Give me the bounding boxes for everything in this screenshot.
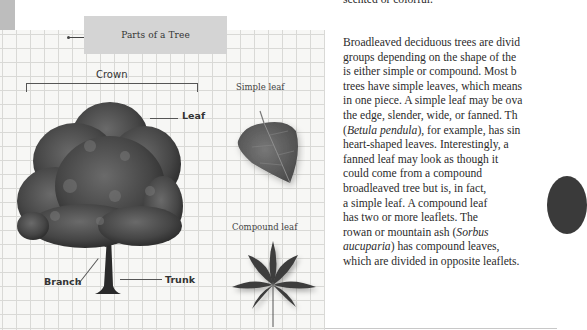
article-paragraph: Broadleaved deciduous trees are dividgro… (343, 36, 522, 270)
text-run: ), for example, has sin (417, 124, 520, 137)
paragraph-line: (Betula pendula), for example, has sin (343, 124, 522, 139)
page-bottom-rule (325, 328, 557, 329)
italic-species-name: Sorbus (456, 226, 488, 239)
paragraph-line: aucuparia) has compound leaves, (343, 240, 522, 255)
branch-label: Branch (44, 276, 82, 287)
tree-illustration-icon (15, 96, 185, 301)
paragraph-line: is either simple or compound. Most b (343, 65, 522, 80)
text-run: heart-shaped leaves. Interestingly, a (343, 138, 509, 151)
text-run: in one piece. A simple leaf may be ova (343, 94, 522, 107)
crown-label: Crown (96, 69, 128, 80)
paragraph-line: broadleaved tree but is, in fact, (343, 182, 522, 197)
paragraph-line: fanned leaf may look as though it (343, 153, 522, 168)
paragraph-line: groups depending on the shape of the (343, 51, 522, 66)
tree-crown (17, 102, 183, 248)
compound-leaf-label: Compound leaf (232, 222, 297, 232)
page-edge-circle-image (547, 176, 587, 234)
text-run: could come from a compound (343, 167, 482, 180)
text-run: rowan or mountain ash ( (343, 226, 456, 239)
trunk-label: Trunk (165, 274, 195, 285)
text-run: is either simple or compound. Most b (343, 65, 517, 78)
text-run: a simple leaf. A compound leaf (343, 197, 487, 210)
leaf-label: Leaf (182, 110, 205, 121)
text-run: which are divided in opposite leaflets. (343, 255, 519, 268)
paragraph-line: a simple leaf. A compound leaf (343, 197, 522, 212)
compound-leaf-icon (226, 235, 321, 330)
text-run: ) has compound leaves, (391, 240, 500, 253)
text-run: groups depending on the shape of the (343, 51, 516, 64)
paragraph-line: rowan or mountain ash (Sorbus (343, 226, 522, 241)
paragraph-line: could come from a compound (343, 167, 522, 182)
paragraph-line: the edge, slender, wide, or fanned. Th (343, 109, 522, 124)
italic-species-name: Betula pendula (347, 124, 418, 137)
diagram-title: Parts of a Tree (121, 30, 190, 40)
paragraph-line: which are divided in opposite leaflets. (343, 255, 522, 270)
paragraph-line: heart-shaped leaves. Interestingly, a (343, 138, 522, 153)
page-corner-tab (0, 0, 15, 30)
trunk-pointer-line (120, 279, 162, 280)
text-run: Broadleaved deciduous trees are divid (343, 36, 520, 49)
simple-leaf-icon (232, 105, 307, 190)
crown-bracket (26, 83, 198, 92)
diagram-title-box: Parts of a Tree (84, 16, 227, 54)
text-run: trees have simple leaves, which means (343, 80, 522, 93)
paragraph-line: has two or more leaflets. The (343, 211, 522, 226)
leaf-pointer-line (150, 118, 178, 119)
text-run: fanned leaf may look as though it (343, 153, 498, 166)
paragraph-line: trees have simple leaves, which means (343, 80, 522, 95)
text-run: broadleaved tree but is, in fact, (343, 182, 486, 195)
paragraph-line: Broadleaved deciduous trees are divid (343, 36, 522, 51)
previous-paragraph-fragment: scented or colorful. (343, 0, 433, 8)
paragraph-line: in one piece. A simple leaf may be ova (343, 94, 522, 109)
italic-species-name: aucuparia (343, 240, 391, 253)
text-run: the edge, slender, wide, or fanned. Th (343, 109, 517, 122)
simple-leaf-label: Simple leaf (236, 82, 284, 92)
text-run: has two or more leaflets. The (343, 211, 478, 224)
